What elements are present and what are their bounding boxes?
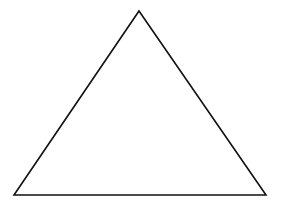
triangle-shape [14,11,266,195]
triangle-figure [0,0,282,208]
diagram-canvas [0,0,282,208]
